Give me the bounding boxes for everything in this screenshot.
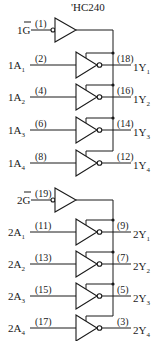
output-bubble-icon xyxy=(97,230,102,235)
buffer-group-1: 1G(1)1A1(2)(18)1Y11A2(4)(16)1Y21A3(6)(14… xyxy=(8,18,150,176)
output-pin-number: (3) xyxy=(117,316,129,328)
junction-dot-icon xyxy=(111,282,114,285)
channel-2A2: 2A2(13)(7)2Y2 xyxy=(8,250,150,277)
output-label: 1Y1 xyxy=(133,61,150,76)
enable-buffer-icon xyxy=(55,18,76,42)
output-label: 2Y3 xyxy=(133,292,150,307)
input-pin-number: (6) xyxy=(35,118,47,130)
output-label: 2Y4 xyxy=(133,324,150,339)
output-label: 1Y4 xyxy=(133,159,150,174)
buffer-group-2: 2G(19)2A1(11)(9)2Y12A2(13)(7)2Y22A3(15)(… xyxy=(8,188,150,341)
output-pin-number: (16) xyxy=(117,85,134,97)
hc240-logic-diagram: 'HC240 1G(1)1A1(2)(18)1Y11A2(4)(16)1Y21A… xyxy=(0,0,158,341)
output-bubble-icon xyxy=(97,95,102,100)
input-label: 1A2 xyxy=(8,91,25,106)
input-pin-number: (13) xyxy=(35,252,52,264)
channel-2A3: 2A3(15)(5)2Y3 xyxy=(8,282,150,309)
input-label: 1A3 xyxy=(8,124,25,139)
junction-dot-icon xyxy=(111,51,114,54)
input-label: 2A2 xyxy=(8,258,25,273)
channel-1A1: 1A1(2)(18)1Y1 xyxy=(8,51,150,78)
input-pin-number: (11) xyxy=(35,220,51,232)
output-label: 1Y2 xyxy=(133,93,150,108)
junction-dot-icon xyxy=(111,83,114,86)
input-pin-number: (17) xyxy=(35,316,52,328)
input-label: 2A4 xyxy=(8,322,25,337)
input-label: 2A1 xyxy=(8,226,25,241)
inversion-bubble-icon xyxy=(51,28,55,32)
input-pin-number: (4) xyxy=(35,85,47,97)
enable-pin-number: (19) xyxy=(35,188,52,200)
channel-1A3: 1A3(6)(14)1Y3 xyxy=(8,116,150,143)
output-pin-number: (12) xyxy=(117,151,134,163)
output-pin-number: (9) xyxy=(117,220,129,232)
input-pin-number: (2) xyxy=(35,53,47,65)
output-pin-number: (14) xyxy=(117,118,134,130)
input-label: 1A4 xyxy=(8,157,25,172)
junction-dot-icon xyxy=(111,218,114,221)
output-bubble-icon xyxy=(97,326,102,331)
buffer-groups: 1G(1)1A1(2)(18)1Y11A2(4)(16)1Y21A3(6)(14… xyxy=(8,18,150,341)
output-label: 2Y2 xyxy=(133,260,150,275)
output-label: 1Y3 xyxy=(133,126,150,141)
input-pin-number: (8) xyxy=(35,151,47,163)
input-label: 1A1 xyxy=(8,59,25,74)
output-bubble-icon xyxy=(97,262,102,267)
output-bubble-icon xyxy=(97,294,102,299)
output-pin-number: (7) xyxy=(117,252,129,264)
output-label: 2Y1 xyxy=(133,228,150,243)
svg-text:2G: 2G xyxy=(17,194,31,206)
output-pin-number: (5) xyxy=(117,284,129,296)
enable-1-label: 1G xyxy=(17,22,31,36)
output-bubble-icon xyxy=(97,161,102,166)
inversion-bubble-icon xyxy=(51,198,55,202)
enable-2-label: 2G xyxy=(17,192,31,206)
channel-2A1: 2A1(11)(9)2Y1 xyxy=(8,218,150,245)
output-pin-number: (18) xyxy=(117,53,134,65)
chip-title: 'HC240 xyxy=(71,1,105,13)
input-pin-number: (15) xyxy=(35,284,52,296)
channel-1A4: 1A4(8)(12)1Y4 xyxy=(8,150,150,176)
enable-pin-number: (1) xyxy=(35,18,47,30)
junction-dot-icon xyxy=(111,250,114,253)
output-bubble-icon xyxy=(97,128,102,133)
enable-buffer-icon xyxy=(55,188,76,212)
channel-1A2: 1A2(4)(16)1Y2 xyxy=(8,83,150,110)
junction-dot-icon xyxy=(111,116,114,119)
input-label: 2A3 xyxy=(8,290,25,305)
output-bubble-icon xyxy=(97,63,102,68)
channel-2A4: 2A4(17)(3)2Y4 xyxy=(8,315,150,341)
svg-text:1G: 1G xyxy=(17,24,31,36)
